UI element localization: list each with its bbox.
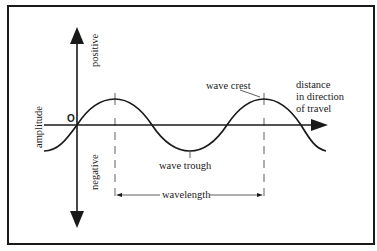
distance-axis <box>44 119 328 131</box>
distance-label-line-1: distance <box>296 79 330 90</box>
positive-label: positive <box>89 34 100 67</box>
arrow-down-icon <box>70 211 84 228</box>
amplitude-label: amplitude <box>33 106 44 148</box>
wavelength-arrow-left-icon <box>116 193 122 197</box>
crest-leader-line <box>240 90 260 97</box>
distance-label-line-3: of travel <box>296 103 331 114</box>
arrow-right-icon <box>311 119 328 131</box>
amplitude-axis <box>70 27 84 228</box>
origin-label: O <box>67 113 75 124</box>
wavelength-label: wavelength <box>162 189 210 200</box>
wave-diagram: positive negative amplitude O wave crest… <box>0 0 377 251</box>
wave-crest-label: wave crest <box>206 80 251 91</box>
arrow-up-icon <box>70 27 84 44</box>
wavelength-arrow-right-icon <box>257 193 263 197</box>
distance-label-line-2: in direction <box>296 91 344 102</box>
wave-trough-label: wave trough <box>159 160 211 171</box>
negative-label: negative <box>89 154 100 190</box>
wave-graphic <box>0 0 377 251</box>
